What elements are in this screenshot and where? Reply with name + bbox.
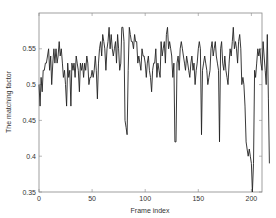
- x-tick-label: 100: [139, 195, 151, 202]
- x-axis-label: Frame index: [131, 207, 170, 214]
- x-tick-label: 200: [246, 195, 258, 202]
- line-chart: 0.350.40.450.50.55 050100150200 Frame in…: [0, 0, 276, 218]
- y-tick-label: 0.4: [26, 153, 36, 160]
- x-tick-label: 0: [37, 195, 41, 202]
- y-axis-label: The matching factor: [5, 70, 13, 133]
- y-tick-label: 0.55: [22, 45, 36, 52]
- plot-area: [39, 13, 262, 192]
- y-tick-label: 0.45: [22, 117, 36, 124]
- x-tick-label: 150: [192, 195, 204, 202]
- y-tick-label: 0.5: [26, 81, 36, 88]
- y-tick-label: 0.35: [22, 189, 36, 196]
- x-tick-label: 50: [88, 195, 96, 202]
